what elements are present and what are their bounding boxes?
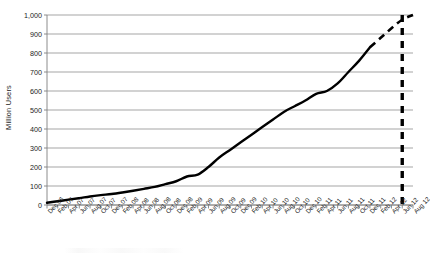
gridlines [47, 15, 413, 205]
plot-area [0, 0, 430, 257]
users-growth-line-chart: Million Users 01002003004005006007008009… [0, 0, 430, 257]
series-line-dashed [370, 15, 413, 47]
data-series-layer [47, 15, 413, 203]
x-axis-tick-marks [47, 205, 413, 209]
caption-remnant [64, 248, 184, 253]
series-line-solid [47, 47, 370, 202]
